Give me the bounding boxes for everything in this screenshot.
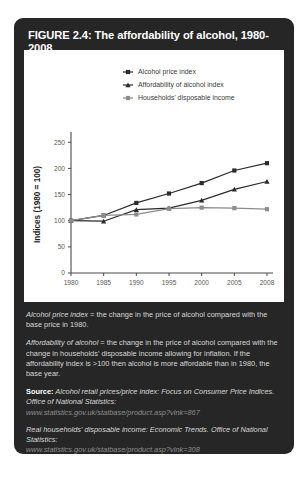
- svg-text:150: 150: [54, 191, 65, 198]
- definition-alcohol-price-index: Alcohol price index = the change in the …: [26, 310, 282, 330]
- svg-text:1995: 1995: [162, 279, 177, 286]
- definition-term-1: Alcohol price index: [26, 310, 88, 319]
- svg-text:250: 250: [54, 139, 65, 146]
- source-url-2[interactable]: www.statistics.gov.uk/statbase/product.a…: [26, 445, 200, 454]
- svg-text:Affordability of alcohol index: Affordability of alcohol index: [138, 81, 224, 89]
- svg-text:2005: 2005: [227, 279, 242, 286]
- source-block-2: Real households' disposable income: Econ…: [26, 425, 282, 456]
- svg-text:1990: 1990: [129, 279, 144, 286]
- line-chart: 050100150200250Indices (1980 = 100)19801…: [24, 50, 284, 302]
- svg-text:1980: 1980: [64, 279, 79, 286]
- svg-text:Households' disposable income: Households' disposable income: [138, 94, 235, 102]
- svg-text:200: 200: [54, 165, 65, 172]
- svg-text:Indices (1980 = 100): Indices (1980 = 100): [33, 166, 42, 243]
- svg-text:0: 0: [61, 269, 65, 276]
- chart-panel: 050100150200250Indices (1980 = 100)19801…: [24, 50, 284, 302]
- source-label: Source:: [26, 387, 54, 396]
- source-block-1: Source: Alcohol retail prices/price inde…: [26, 387, 282, 418]
- definition-affordability: Affordability of alcohol = the change in…: [26, 338, 282, 379]
- notes-block: Alcohol price index = the change in the …: [26, 310, 282, 463]
- svg-text:Alcohol price index: Alcohol price index: [138, 68, 196, 76]
- svg-text:50: 50: [58, 243, 66, 250]
- svg-text:1985: 1985: [96, 279, 111, 286]
- figure-card: FIGURE 2.4: The affordability of alcohol…: [14, 18, 294, 454]
- svg-text:2000: 2000: [194, 279, 209, 286]
- svg-text:100: 100: [54, 217, 65, 224]
- source-text-1: Alcohol retail prices/price index: Focus…: [26, 387, 274, 406]
- definition-term-2: Affordability of alcohol: [26, 338, 98, 347]
- source-url-1[interactable]: www.statistics.gov.uk/statbase/product.a…: [26, 408, 200, 417]
- svg-text:2008: 2008: [260, 279, 275, 286]
- source-text-2: Real households' disposable income: Econ…: [26, 425, 268, 444]
